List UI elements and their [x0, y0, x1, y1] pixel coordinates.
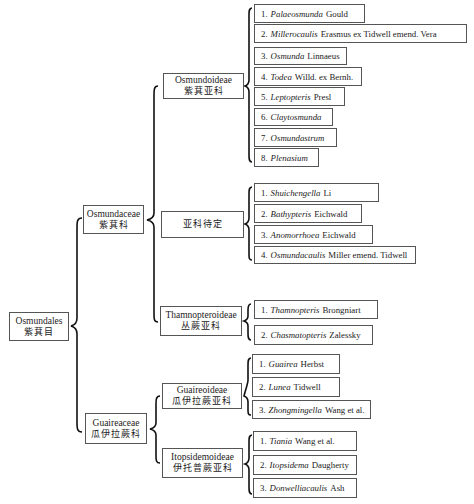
- genus-node: 4.OsmundacaulisMiller emend. Tidwell: [254, 246, 416, 264]
- order-name: Osmundales: [16, 316, 63, 327]
- family-name: Osmundaceae: [87, 209, 140, 220]
- genus-node: 2.ChasmatopterisZalessky: [254, 325, 373, 345]
- family-node-guaireaceae: Guaireaceae 瓜伊拉蕨科: [85, 413, 147, 444]
- subfamily-name: Osmundoideae: [175, 75, 232, 86]
- subfamily-node-guaireoideae: Guaireoideae 瓜伊拉蕨亚科: [162, 383, 242, 409]
- genus-node: 1.GuaireaHerbst: [252, 354, 340, 374]
- genus-node: 3.OsmundaLinnaeus: [254, 47, 347, 65]
- subfamily-name: Itopsidemoideae: [171, 452, 234, 463]
- subfamily-name: Thamnopteroideae: [165, 310, 236, 321]
- subfamily-name-zh: 紫萁亚科: [184, 86, 224, 97]
- family-name: Guaireaceae: [93, 418, 140, 429]
- genus-node: 2.LuneaTidwell: [252, 377, 340, 397]
- order-bracket: [71, 218, 82, 432]
- genus-node: 1.ShuichengellaLi: [254, 183, 379, 202]
- genus-node: 1.PalaeosmundaGould: [254, 4, 365, 23]
- order-node-osmundales: Osmundales 紫萁目: [9, 312, 69, 341]
- genus-node: 2.BathypterisEichwald: [254, 204, 362, 223]
- subfamily-node-osmundoideae: Osmundoideae 紫萁亚科: [163, 73, 244, 99]
- subfamily-name: Guaireoideae: [177, 385, 228, 396]
- family-name-zh: 紫萁科: [99, 220, 129, 231]
- genus-node: 1.ThamnopterisBrongniart: [254, 300, 378, 319]
- guaireaceae-bracket: [150, 396, 160, 463]
- family-node-osmundaceae: Osmundaceae 紫萁科: [83, 205, 144, 234]
- subfamily-node-thamnopteroideae: Thamnopteroideae 丛蕨亚科: [160, 306, 242, 336]
- subfamily-name-zh: 丛蕨亚科: [181, 321, 221, 332]
- family-name-zh: 瓜伊拉蕨科: [91, 429, 141, 440]
- genus-node: 1.TianiaWang et al.: [253, 431, 357, 451]
- subfamily-name-zh: 瓜伊拉蕨亚科: [172, 396, 232, 407]
- genus-node: 8.Plenasium: [254, 148, 319, 167]
- genus-node: 6.Claytosmunda: [254, 108, 333, 126]
- genus-node: 2.MillerocaulisErasmus ex Tidwell emend.…: [254, 24, 467, 43]
- genus-node: 3.ZhongmingellaWang et al.: [252, 400, 371, 419]
- subfamily-name-zh: 伊托普蕨亚科: [173, 463, 233, 474]
- order-name-zh: 紫萁目: [24, 327, 54, 338]
- subfamily-node-incertae: 亚科待定: [161, 211, 244, 238]
- osmundaceae-bracket: [147, 86, 158, 322]
- genus-node: 3.DonwelliacaulisAsh: [253, 478, 357, 498]
- genus-node: 3.AnomorrhoeaEichwald: [254, 225, 373, 244]
- genus-node: 2.ItopsidemaDaugherty: [253, 455, 357, 475]
- subfamily-node-itopsidemoideae: Itopsidemoideae 伊托普蕨亚科: [162, 448, 243, 478]
- genus-node: 7.Osmundastrum: [254, 128, 337, 147]
- subfamily-name-zh: 亚科待定: [183, 219, 223, 230]
- genus-node: 4.TodeaWilld. ex Bernh.: [254, 67, 362, 86]
- genus-node: 5.LeptopterisPresl: [254, 87, 345, 106]
